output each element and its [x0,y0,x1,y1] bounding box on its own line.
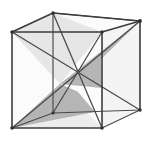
vertex-front-bottom-left [10,126,13,129]
vertex-front-top-left [10,30,13,33]
vertex-back-top-left [51,11,54,14]
vertex-back-bottom-left [52,112,55,115]
vertex-back-bottom-right [138,108,141,111]
vertex-front-bottom-right [100,126,103,129]
cube-diagram-figure: Cube with intersecting interior diagonal… [0,0,152,141]
vertex-back-top-right [138,19,142,23]
vertex-front-top-right [100,30,103,33]
cube-diagram-canvas: Cube with intersecting interior diagonal… [0,0,152,141]
